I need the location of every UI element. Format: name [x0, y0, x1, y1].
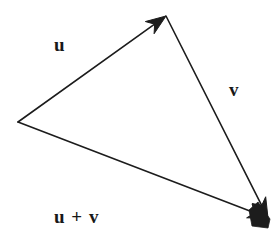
canvas-background: [0, 0, 279, 240]
vector-label-v: v: [229, 80, 239, 99]
vector-label-u-plus-v: u + v: [54, 207, 99, 226]
vector-diagram: u v u + v: [0, 0, 279, 240]
vector-label-u: u: [54, 35, 65, 54]
vector-canvas: [0, 0, 279, 240]
